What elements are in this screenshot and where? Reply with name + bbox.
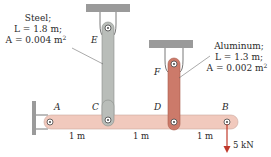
steel-area-label: A = 0.004 m2: [5, 34, 67, 45]
span-AC-label: 1 m: [69, 131, 85, 141]
point-B-label: B: [221, 102, 229, 112]
span-DB-label: 1 m: [197, 131, 213, 141]
steel-leader-line: [72, 48, 103, 64]
point-D-label: D: [153, 102, 161, 112]
point-C-label: C: [92, 102, 99, 112]
steel-ceiling-support: [86, 4, 130, 12]
steel-material-label: Steel;: [25, 13, 51, 23]
span-CD-label: 1 m: [133, 131, 149, 141]
pin-C: [105, 117, 111, 123]
point-F-label: F: [153, 67, 161, 77]
arrowhead-icon: [224, 146, 231, 153]
aluminum-leader-line: [179, 56, 210, 78]
aluminum-ceiling-support: [149, 40, 193, 48]
pin-F: [171, 61, 177, 67]
pin-A: [47, 119, 53, 125]
beam-diagram: Steel; L = 1.8 m; A = 0.004 m2 E Aluminu…: [0, 0, 271, 157]
load-label: 5 kN: [233, 140, 254, 150]
pin-D: [171, 119, 177, 125]
aluminum-length-label: L = 1.3 m;: [215, 52, 263, 62]
steel-length-label: L = 1.8 m;: [14, 24, 62, 34]
wall-support: [32, 101, 36, 135]
rigid-bar: [44, 115, 238, 129]
point-A-label: A: [53, 102, 61, 112]
aluminum-material-label: Aluminum;: [213, 41, 264, 51]
point-E-label: E: [90, 35, 98, 45]
aluminum-area-label: A = 0.002 m2: [206, 62, 268, 73]
pin-E: [105, 25, 111, 31]
